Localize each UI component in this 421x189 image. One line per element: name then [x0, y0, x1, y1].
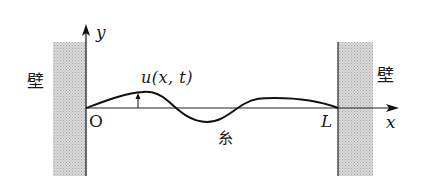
left-wall [53, 42, 86, 176]
diagram-canvas [0, 0, 421, 189]
wall-label-left: 壁 [27, 73, 44, 90]
length-label: L [321, 113, 332, 130]
right-wall [338, 42, 373, 176]
y-axis-label: y [96, 24, 106, 41]
string-curve [86, 92, 338, 122]
displacement-arrow-head-icon [136, 93, 141, 99]
string-label: 糸 [218, 131, 233, 146]
origin-label: O [89, 113, 103, 130]
x-axis-label: x [386, 114, 396, 131]
wall-label-right: 壁 [377, 67, 394, 84]
displacement-label: u(x, t) [141, 70, 193, 86]
